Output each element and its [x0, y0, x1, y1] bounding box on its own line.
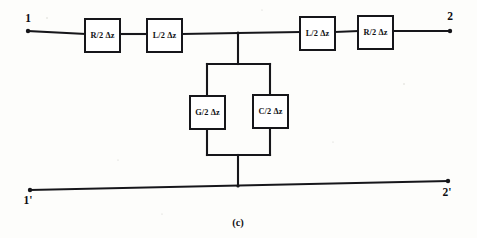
- series-resistor-right: R/2 Δz: [358, 16, 393, 49]
- series-inductor-right: L/2 Δz: [300, 17, 335, 50]
- series-resistor-right-label: R/2 Δz: [363, 28, 387, 37]
- junction-bottom-node: [236, 184, 239, 187]
- series-inductor-right-label: L/2 Δz: [306, 29, 330, 38]
- series-inductor-left-label: L/2 Δz: [153, 31, 177, 40]
- terminal-2-prime-label: 2': [443, 186, 452, 198]
- terminal-2-dot: [448, 29, 452, 33]
- series-resistor-left-label: R/2 Δz: [90, 31, 114, 40]
- terminal-1-dot: [26, 29, 30, 33]
- shunt-conductance: G/2 Δz: [190, 96, 225, 129]
- terminal-2-label: 2: [447, 10, 453, 22]
- terminal-1-label: 1: [25, 12, 31, 24]
- terminal-2-prime-dot: [446, 179, 450, 183]
- junction-top-node: [236, 31, 239, 34]
- terminal-1-prime-label: 1': [24, 194, 33, 206]
- figure-caption: (c): [232, 217, 244, 229]
- wire-top-node-to-right: [238, 32, 300, 33]
- circuit-diagram-canvas: R/2 ΔzL/2 ΔzL/2 ΔzR/2 ΔzG/2 ΔzC/2 Δz 121…: [0, 0, 477, 238]
- circuit-figure: R/2 ΔzL/2 ΔzL/2 ΔzR/2 ΔzG/2 ΔzC/2 Δz 121…: [0, 0, 477, 238]
- wire-top-right-between: [335, 31, 358, 32]
- terminal-1-prime-dot: [28, 188, 32, 192]
- shunt-capacitor-label: C/2 Δz: [258, 107, 282, 116]
- wire-top-left-to-node: [182, 33, 238, 34]
- shunt-capacitor: C/2 Δz: [253, 95, 288, 128]
- series-resistor-left: R/2 Δz: [85, 19, 120, 52]
- shunt-conductance-label: G/2 Δz: [195, 108, 220, 117]
- series-inductor-left: L/2 Δz: [147, 19, 182, 52]
